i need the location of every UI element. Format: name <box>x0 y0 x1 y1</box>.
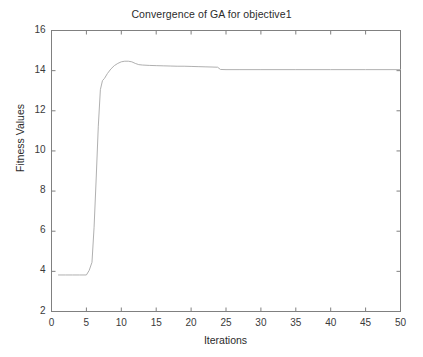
y-tick-label: 4 <box>16 264 46 275</box>
series-line <box>58 61 400 275</box>
x-axis-label: Iterations <box>51 334 400 346</box>
x-tick-label: 5 <box>71 317 101 328</box>
x-tick-label: 40 <box>316 317 346 328</box>
y-tick-label: 2 <box>16 305 46 316</box>
y-axis-label: Fitness Values <box>14 88 26 188</box>
y-tick-label: 16 <box>16 24 46 35</box>
x-tick-label: 35 <box>281 317 311 328</box>
x-tick-label: 25 <box>211 317 241 328</box>
x-tick-label: 0 <box>37 317 67 328</box>
x-tick-label: 10 <box>106 317 136 328</box>
figure-canvas: Convergence of GA for objective1 0510152… <box>0 0 423 357</box>
x-tick-label: 20 <box>176 317 206 328</box>
y-tick-label: 6 <box>16 224 46 235</box>
y-tick-label: 14 <box>16 64 46 75</box>
plot-border <box>52 31 401 312</box>
x-tick-label: 45 <box>351 317 381 328</box>
x-tick-label: 15 <box>141 317 171 328</box>
plot-area <box>0 0 423 357</box>
x-tick-label: 30 <box>246 317 276 328</box>
data-series <box>58 61 400 275</box>
x-tick-label: 50 <box>386 317 416 328</box>
axis-ticks <box>52 31 401 312</box>
axes-frame <box>52 31 401 312</box>
